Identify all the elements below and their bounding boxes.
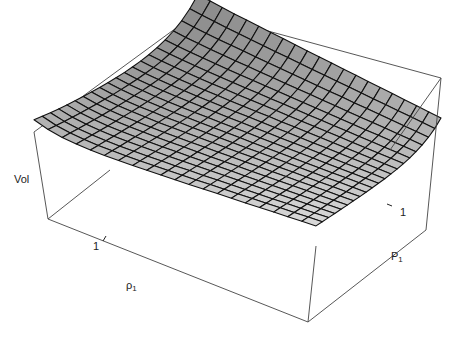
rho-tick-label: 1: [93, 241, 99, 252]
surface-plot: [0, 0, 452, 338]
surface-mesh: [34, 0, 441, 226]
x-axis-label-rho: ρ1: [126, 280, 137, 293]
y-axis-label-p: P1: [391, 251, 403, 264]
z-axis-label: Vol: [14, 174, 29, 185]
p-tick-mark: [387, 204, 392, 206]
rho-tick-mark: [103, 236, 106, 241]
p-tick-label: 1: [400, 207, 406, 218]
rho-subscript: 1: [132, 284, 136, 293]
ticks: [103, 204, 392, 241]
p-subscript: 1: [398, 255, 402, 264]
vol-label-text: Vol: [14, 173, 29, 185]
